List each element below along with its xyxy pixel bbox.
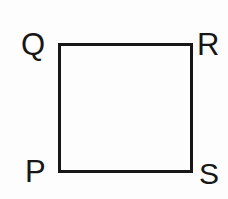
vertex-label-q: Q bbox=[21, 29, 45, 60]
square-outline bbox=[60, 45, 192, 172]
vertex-label-r: R bbox=[197, 29, 219, 60]
vertex-label-s: S bbox=[199, 159, 219, 189]
vertex-label-p: P bbox=[25, 156, 46, 187]
diagram-canvas: Q R P S bbox=[0, 0, 228, 199]
